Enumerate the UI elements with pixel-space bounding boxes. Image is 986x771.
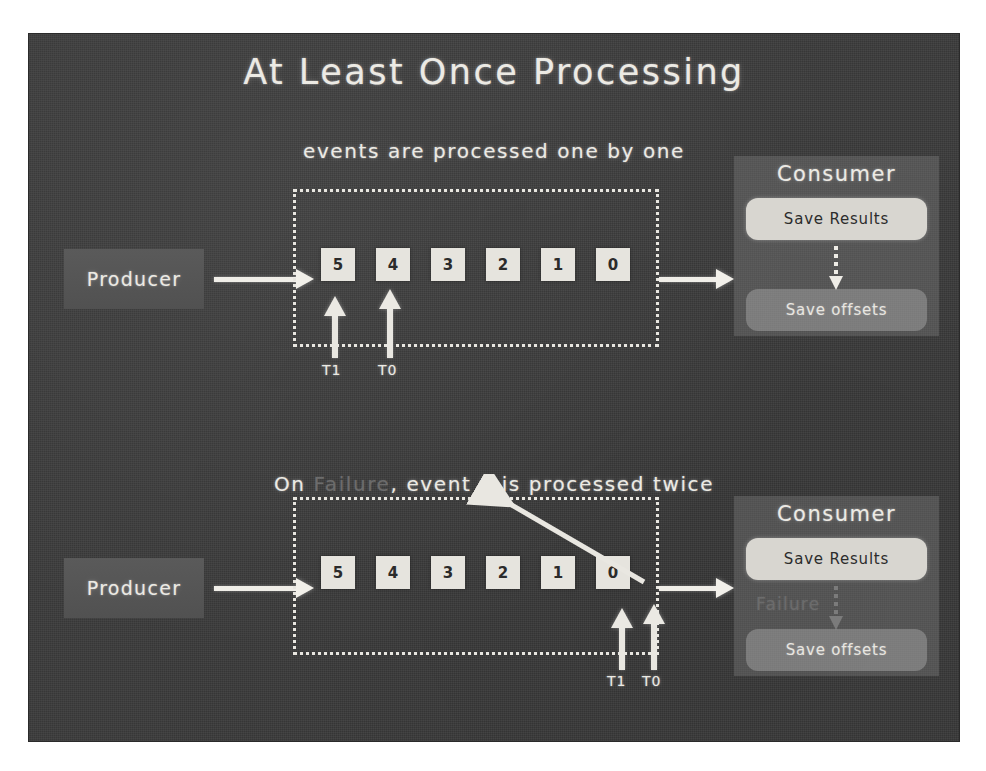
arrow-shaft bbox=[214, 277, 297, 282]
queue-cell: 0 bbox=[596, 248, 630, 281]
queue-box-bottom: 5 4 3 2 1 0 bbox=[293, 497, 659, 655]
pointer-label-t0-bottom: T0 bbox=[642, 673, 661, 689]
bottom-caption: On Failure, event 0 is processed twice bbox=[29, 472, 959, 496]
queue-cell: 4 bbox=[376, 248, 410, 281]
pointer-label-t1-bottom: T1 bbox=[607, 673, 626, 689]
consumer-flow-arrow-bottom bbox=[829, 586, 843, 630]
arrow-shaft bbox=[659, 277, 717, 282]
offset-pointer-arrow-t1-bottom bbox=[611, 608, 633, 670]
queue-cell: 5 bbox=[321, 556, 355, 589]
arrow-shaft bbox=[332, 314, 338, 358]
consumer-flow-arrow-top bbox=[829, 246, 843, 290]
queue-to-consumer-arrow-top bbox=[659, 269, 734, 289]
consumer-step-save-offsets-bottom: Save offsets bbox=[746, 629, 927, 671]
queue-cell: 3 bbox=[431, 556, 465, 589]
page-title: At Least Once Processing bbox=[29, 52, 959, 92]
arrow-shaft bbox=[834, 246, 838, 277]
arrow-head bbox=[324, 296, 346, 316]
consumer-title-top: Consumer bbox=[734, 162, 939, 186]
consumer-step-save-results-top: Save Results bbox=[746, 198, 927, 240]
queue-cell: 2 bbox=[486, 556, 520, 589]
arrow-shaft bbox=[834, 586, 838, 617]
queue-box-top: 5 4 3 2 1 0 bbox=[293, 189, 659, 347]
queue-cell: 1 bbox=[541, 248, 575, 281]
arrow-head bbox=[379, 289, 401, 309]
arrow-head bbox=[643, 604, 665, 624]
pointer-label-t1-top: T1 bbox=[322, 362, 341, 378]
arrow-shaft bbox=[659, 586, 717, 591]
queue-cell: 1 bbox=[541, 556, 575, 589]
arrow-shaft bbox=[619, 626, 625, 670]
queue-cell: 4 bbox=[376, 556, 410, 589]
consumer-step-save-results-bottom: Save Results bbox=[746, 538, 927, 580]
queue-cell: 2 bbox=[486, 248, 520, 281]
queue-cell: 0 bbox=[596, 556, 630, 589]
offset-pointer-arrow-t1-top bbox=[324, 296, 346, 358]
arrow-head bbox=[611, 608, 633, 628]
queue-cell: 3 bbox=[431, 248, 465, 281]
queue-cell: 5 bbox=[321, 248, 355, 281]
consumer-panel-top: Consumer Save Results Save offsets bbox=[734, 156, 939, 336]
bottom-caption-dim-word: Failure bbox=[314, 472, 391, 496]
producer-box-top: Producer bbox=[64, 249, 204, 309]
arrow-shaft bbox=[387, 307, 393, 358]
consumer-title-bottom: Consumer bbox=[734, 502, 939, 526]
producer-label-top: Producer bbox=[87, 268, 182, 290]
consumer-step-save-offsets-top: Save offsets bbox=[746, 289, 927, 331]
pointer-label-t0-top: T0 bbox=[378, 362, 397, 378]
arrow-shaft bbox=[214, 586, 297, 591]
producer-label-bottom: Producer bbox=[87, 577, 182, 599]
arrow-head bbox=[829, 616, 843, 630]
bottom-caption-suffix: , event 0 is processed twice bbox=[391, 472, 715, 496]
arrow-head bbox=[716, 269, 734, 289]
slide-canvas: At Least Once Processing events are proc… bbox=[28, 33, 960, 742]
producer-box-bottom: Producer bbox=[64, 558, 204, 618]
arrow-head bbox=[716, 578, 734, 598]
arrow-head bbox=[829, 276, 843, 290]
consumer-failure-marker: Failure bbox=[756, 594, 820, 614]
offset-pointer-arrow-t0-bottom bbox=[643, 604, 665, 670]
offset-pointer-arrow-t0-top bbox=[379, 289, 401, 358]
bottom-caption-prefix: On bbox=[274, 472, 314, 496]
arrow-shaft bbox=[651, 622, 657, 670]
consumer-panel-bottom: Consumer Save Results Failure Save offse… bbox=[734, 496, 939, 676]
queue-to-consumer-arrow-bottom bbox=[659, 578, 734, 598]
